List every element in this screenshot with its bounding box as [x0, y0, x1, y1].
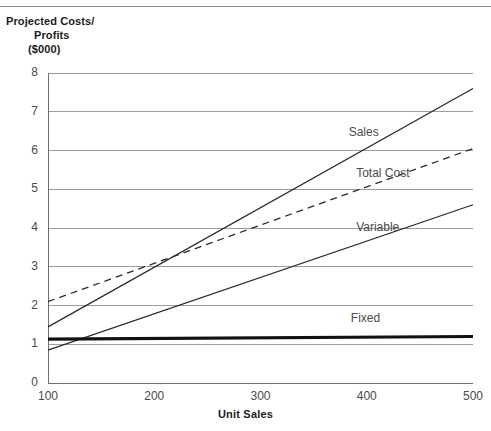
series-label-total-cost: Total Cost [356, 166, 409, 180]
chart-page: Projected Costs/ Profits ($000) 8 7 6 5 … [0, 0, 491, 431]
series-label-variable: Variable [356, 220, 399, 234]
chart-title-line-3: ($000) [6, 42, 176, 56]
x-axis-tick-300: 300 [231, 389, 291, 403]
series-label-sales: Sales [349, 125, 379, 139]
x-axis-tick-100: 100 [18, 389, 78, 403]
y-axis-tick-2: 2 [8, 298, 38, 312]
y-axis-tick-5: 5 [8, 181, 38, 195]
x-axis-tick-200: 200 [124, 389, 184, 403]
chart-canvas [48, 73, 473, 383]
y-axis-tick-6: 6 [8, 143, 38, 157]
y-axis-tick-7: 7 [8, 104, 38, 118]
chart-title: Projected Costs/ Profits ($000) [6, 14, 176, 56]
top-divider [0, 6, 491, 7]
y-axis-tick-8: 8 [8, 65, 38, 79]
chart-title-line-1: Projected Costs/ [6, 14, 176, 28]
plot-area [48, 73, 473, 383]
gridlines [48, 73, 473, 344]
series-lines [48, 89, 473, 351]
series-label-fixed: Fixed [351, 311, 380, 325]
x-axis-tick-400: 400 [337, 389, 397, 403]
series-line-variable [48, 205, 473, 350]
chart-title-line-2: Profits [6, 28, 176, 42]
y-axis-tick-3: 3 [8, 259, 38, 273]
series-line-sales [48, 89, 473, 327]
series-line-fixed [48, 337, 473, 340]
y-axis-tick-1: 1 [8, 336, 38, 350]
y-axis-tick-4: 4 [8, 220, 38, 234]
x-axis-title: Unit Sales [0, 408, 491, 420]
y-axis-tick-0: 0 [8, 375, 38, 389]
x-axis-tick-500: 500 [443, 389, 491, 403]
